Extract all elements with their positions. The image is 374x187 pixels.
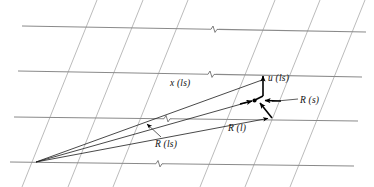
grid-col-1 — [22, 0, 97, 187]
break-mark-row-1 — [211, 26, 219, 32]
vector-R-s — [260, 103, 272, 118]
break-mark-row-3 — [164, 116, 172, 122]
label-x-ls: x (ls) — [170, 79, 190, 89]
vector-R-ls-head — [240, 101, 252, 104]
slanted-gridlines-group — [22, 0, 365, 187]
label-u-ls: u (ls) — [268, 74, 289, 84]
grid-row-3-left — [14, 117, 164, 119]
label-R-l: R (l) — [228, 124, 246, 134]
figure-canvas — [0, 0, 374, 187]
break-mark-row-2 — [208, 71, 216, 77]
rays-group — [36, 80, 268, 162]
label-R-ls: R (ls) — [155, 140, 177, 150]
ray-x-ls — [36, 80, 262, 162]
figure-container: x (ls) u (ls) R (s) R (l) R (ls) — [0, 0, 374, 187]
node-mid-dot — [252, 98, 256, 102]
grid-row-1-left — [22, 26, 211, 29]
break-mark-row-4 — [156, 161, 164, 167]
label-R-s: R (s) — [300, 96, 319, 106]
grid-col-5 — [245, 0, 320, 187]
grid-row-1-right — [219, 29, 366, 32]
grid-col-6 — [290, 0, 365, 187]
grid-row-4-right — [164, 164, 354, 166]
leader-R-ls — [147, 124, 161, 137]
